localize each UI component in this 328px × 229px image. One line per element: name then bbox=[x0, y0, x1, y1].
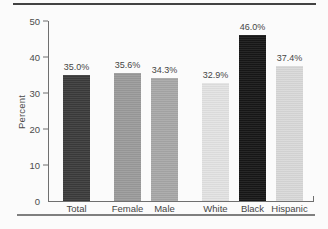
bottom-rule bbox=[17, 214, 315, 216]
bar-value-label-male: 34.3% bbox=[152, 65, 178, 75]
bar-slot-black: 46.0%Black bbox=[239, 21, 266, 201]
y-tick-label-10: 10 bbox=[29, 160, 40, 171]
bar-slot-white: 32.9%White bbox=[202, 21, 229, 201]
y-tick-30 bbox=[43, 93, 48, 94]
x-tick-label-black: Black bbox=[241, 203, 264, 214]
bar-value-label-white: 32.9% bbox=[203, 70, 229, 80]
bar-group-3: 32.9%White46.0%Black37.4%Hispanic bbox=[202, 21, 303, 201]
bar-total bbox=[63, 75, 90, 201]
y-axis-title: Percent bbox=[16, 95, 27, 129]
x-tick-label-male: Male bbox=[154, 203, 175, 214]
plot-area: 35.0%Total35.6%Female34.3%Male32.9%White… bbox=[48, 21, 314, 202]
bars: 35.0%Total35.6%Female34.3%Male32.9%White… bbox=[49, 21, 314, 201]
y-tick-40 bbox=[43, 57, 48, 58]
bar-white bbox=[202, 83, 229, 201]
bar-black bbox=[239, 35, 266, 201]
y-tick-label-30: 30 bbox=[29, 88, 40, 99]
bar-male bbox=[151, 78, 178, 201]
bar-group-2: 35.6%Female34.3%Male bbox=[114, 21, 178, 201]
y-tick-label-50: 50 bbox=[29, 16, 40, 27]
y-tick-20 bbox=[43, 129, 48, 130]
bar-group-1: 35.0%Total bbox=[63, 21, 90, 201]
bar-value-label-hispanic: 37.4% bbox=[277, 53, 303, 63]
y-tick-label-20: 20 bbox=[29, 124, 40, 135]
bar-female bbox=[114, 73, 141, 201]
y-tick-label-0: 0 bbox=[35, 196, 40, 207]
bar-hispanic bbox=[276, 66, 303, 201]
bar-value-label-total: 35.0% bbox=[64, 62, 90, 72]
x-tick-label-total: Total bbox=[66, 203, 86, 214]
y-tick-50 bbox=[43, 21, 48, 22]
y-tick-label-40: 40 bbox=[29, 52, 40, 63]
y-tick-10 bbox=[43, 165, 48, 166]
bar-chart-figure: Percent 35.0%Total35.6%Female34.3%Male32… bbox=[0, 0, 328, 229]
bar-slot-hispanic: 37.4%Hispanic bbox=[276, 21, 303, 201]
x-tick-label-hispanic: Hispanic bbox=[271, 203, 307, 214]
bar-slot-male: 34.3%Male bbox=[151, 21, 178, 201]
bar-value-label-black: 46.0% bbox=[240, 22, 266, 32]
bar-slot-total: 35.0%Total bbox=[63, 21, 90, 201]
top-rule bbox=[13, 3, 316, 5]
x-tick-label-female: Female bbox=[112, 203, 144, 214]
bar-slot-female: 35.6%Female bbox=[114, 21, 141, 201]
x-tick-label-white: White bbox=[203, 203, 227, 214]
bar-value-label-female: 35.6% bbox=[115, 60, 141, 70]
